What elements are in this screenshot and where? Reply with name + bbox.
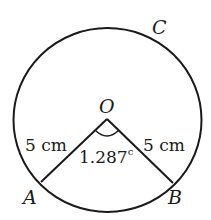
label-C: C [152,16,167,38]
label-O: O [99,95,115,117]
radius-OA-label: 5 cm [25,135,67,155]
angle-value: 1.287 [79,147,128,167]
angle-unit: c [128,146,134,157]
label-B: B [167,186,182,208]
sector-diagram: O A B C 5 cm 5 cm 1.287c [0,0,211,220]
angle-label: 1.287c [79,146,134,167]
angle-arc [95,130,119,136]
label-A: A [21,186,37,208]
radius-OB-label: 5 cm [143,135,185,155]
